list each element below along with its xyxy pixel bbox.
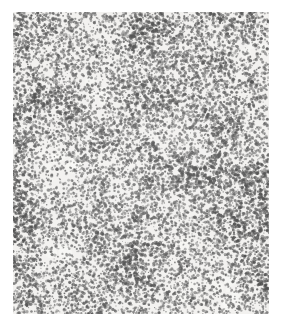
image-page: [0, 0, 282, 328]
grain-texture: [13, 12, 269, 314]
micrograph-plate: [13, 12, 269, 314]
